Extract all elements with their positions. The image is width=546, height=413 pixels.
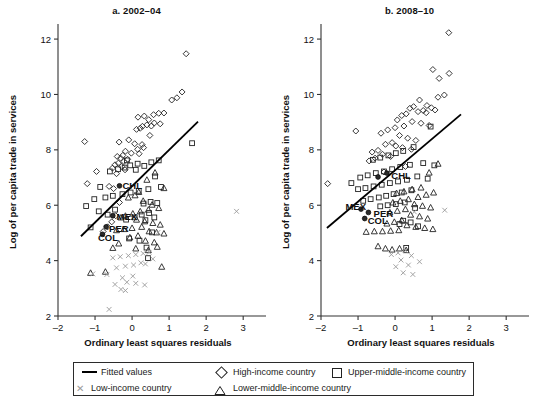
- x-tick-label: 3: [241, 322, 246, 333]
- x-marker: [123, 288, 128, 293]
- legend-label-fitted-values: Fitted values: [101, 367, 152, 377]
- legend-item-upper-middle-income: Upper-middle-income country: [329, 364, 466, 380]
- diamond-marker: [94, 168, 100, 174]
- x-tick-label: 2: [203, 322, 208, 333]
- x-marker: [389, 252, 394, 257]
- square-marker: [368, 197, 373, 202]
- triangle-marker: [391, 219, 397, 225]
- legend-item-high-income: High-income country: [214, 364, 316, 380]
- triangle-marker: [151, 239, 157, 245]
- triangle-marker: [363, 229, 369, 235]
- y-tick-label: 12: [40, 34, 51, 45]
- square-marker: [378, 155, 383, 160]
- y-tick-label: 8: [46, 144, 51, 155]
- legend-row-2: ✕ Low-income country Lower-middle-income…: [74, 380, 473, 396]
- diamond-marker: [84, 181, 90, 187]
- square-marker: [103, 195, 108, 200]
- triangle-marker: [415, 194, 421, 200]
- square-marker: [128, 163, 133, 168]
- triangle-marker: [390, 199, 396, 205]
- square-marker: [190, 141, 195, 146]
- triangle-marker: [396, 227, 402, 233]
- panel-b-plot: 24681012–2–10123Ordinary least squares r…: [273, 0, 546, 358]
- triangle-marker: [161, 185, 167, 191]
- diamond-glyph: [214, 366, 230, 378]
- x-marker: [139, 260, 144, 265]
- diamond-marker: [157, 121, 163, 127]
- x-tick-label: 1: [166, 322, 171, 333]
- triangle-marker: [157, 222, 163, 228]
- panel-a: a. 2002–04 24681012–2–10123Ordinary leas…: [0, 0, 273, 358]
- y-tick-label: 6: [309, 200, 314, 211]
- diamond-marker: [446, 30, 452, 36]
- x-marker: [110, 255, 115, 260]
- x-marker: [150, 257, 155, 262]
- diamond-marker: [392, 125, 398, 131]
- diamond-marker: [426, 122, 432, 128]
- x-tick-label: 3: [504, 322, 509, 333]
- square-marker: [387, 181, 392, 186]
- triangle-marker: [379, 228, 385, 234]
- triangle-marker: [405, 196, 411, 202]
- square-marker: [376, 195, 381, 200]
- triangle-marker: [144, 177, 150, 183]
- diamond-marker: [432, 107, 438, 113]
- square-marker: [384, 193, 389, 198]
- legend-label-low-income: Low-income country: [91, 383, 172, 393]
- highlighted-country-marker: [110, 213, 115, 218]
- y-tick-label: 10: [40, 89, 51, 100]
- triangle-marker: [142, 238, 148, 244]
- square-marker: [135, 161, 140, 166]
- highlighted-country-marker: [362, 216, 367, 221]
- diamond-marker: [405, 135, 411, 141]
- highlighted-country-marker: [376, 175, 381, 180]
- triangle-marker: [146, 228, 152, 234]
- triangle-marker: [431, 189, 437, 195]
- panel-a-plot: 24681012–2–10123Ordinary least squares r…: [0, 0, 273, 358]
- triangle-marker: [159, 264, 165, 270]
- diamond-marker: [325, 181, 331, 187]
- x-tick-label: 2: [466, 322, 471, 333]
- y-tick-label: 6: [46, 200, 51, 211]
- x-marker: [114, 265, 119, 270]
- diamond-marker: [375, 147, 381, 153]
- x-marker: [124, 280, 129, 285]
- triangle-marker: [397, 245, 403, 251]
- diamond-marker: [366, 158, 372, 164]
- x-marker: [399, 258, 404, 263]
- diamond-marker: [394, 117, 400, 123]
- square-marker: [146, 256, 151, 261]
- diamond-marker: [385, 127, 391, 133]
- x-tick-label: –2: [316, 322, 327, 333]
- diamond-marker: [116, 139, 122, 145]
- triangle-marker: [110, 245, 116, 251]
- x-marker: [118, 254, 123, 259]
- diamond-marker: [183, 51, 189, 57]
- triangle-marker: [435, 161, 441, 167]
- x-marker: [130, 274, 135, 279]
- x-tick-label: 0: [392, 322, 397, 333]
- diamond-marker: [179, 89, 185, 95]
- y-axis-title: Log of per capita trade in services: [280, 95, 291, 249]
- diamond-marker: [415, 109, 421, 115]
- square-glyph: [329, 366, 345, 378]
- triangle-marker: [402, 206, 408, 212]
- diamond-marker: [436, 75, 442, 81]
- legend-item-lower-middle-income: Lower-middle-income country: [214, 380, 351, 396]
- highlighted-country-marker: [366, 210, 371, 215]
- square-marker: [363, 186, 368, 191]
- diamond-marker: [128, 150, 134, 156]
- diamond-marker: [126, 137, 132, 143]
- point-label-chl: CHL: [391, 170, 411, 181]
- diamond-marker: [446, 70, 452, 76]
- diamond-marker: [135, 114, 141, 120]
- diamond-marker: [151, 120, 157, 126]
- square-marker: [393, 151, 398, 156]
- triangle-marker: [137, 208, 143, 214]
- diamond-marker: [369, 149, 375, 155]
- panel-b: b. 2008–10 24681012–2–10123Ordinary leas…: [273, 0, 546, 358]
- diamond-marker: [409, 119, 415, 125]
- x-glyph: ✕: [72, 382, 88, 394]
- square-marker: [365, 173, 370, 178]
- diamond-marker: [382, 141, 388, 147]
